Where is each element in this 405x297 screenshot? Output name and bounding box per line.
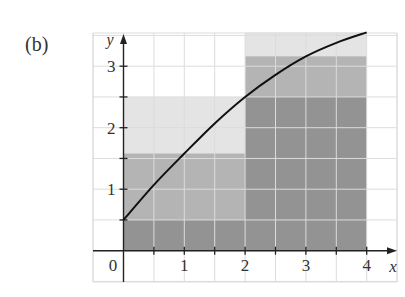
x-tick-label: 2 [241,256,250,275]
x-axis-label: x [388,257,397,276]
y-tick-label: 2 [107,119,116,138]
riemann-sum-figure: (b) 12341230xy [0,0,405,297]
y-tick-label: 3 [107,57,116,76]
y-axis-label: y [104,31,114,49]
x-tick-label: 1 [180,256,189,275]
y-tick-label: 1 [107,180,116,199]
origin-label: 0 [109,256,118,275]
x-tick-label: 4 [362,256,371,275]
x-axis-arrow-icon [387,247,397,254]
chart-plot: 12341230xy [0,0,405,297]
part-label: (b) [25,33,48,56]
x-tick-label: 3 [302,256,311,275]
